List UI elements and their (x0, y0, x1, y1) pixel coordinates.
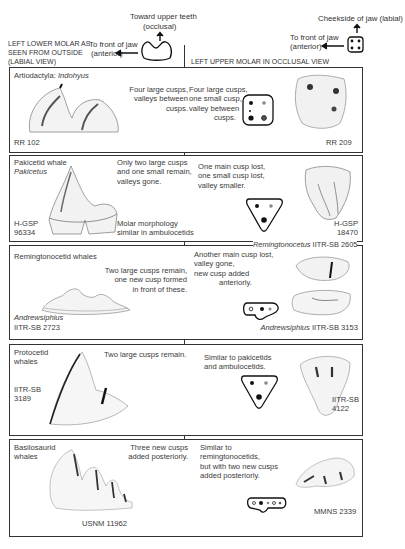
row2-lower-specimen: H-GSP96334 (14, 219, 38, 238)
left-title-1: LEFT LOWER MOLAR AS (8, 40, 90, 49)
row4-lower-specimen: IITR-SB3189 (14, 385, 41, 404)
row2-lower-note: Molar morphologysimilar in ambulocetids (117, 219, 194, 238)
row3-lower-specimen: IITR-SB 2723 (14, 323, 60, 332)
upper-molar-outline-icon (347, 36, 365, 54)
row2-lower-molar-drawing (45, 162, 120, 236)
row5-lower-specimen: USNM 11962 (82, 519, 127, 528)
row5-lower-desc: Three new cuspsadded posteriorly. (110, 443, 188, 462)
row2-cusp-diagram (245, 196, 285, 234)
row3-upper-top-drawing (292, 254, 354, 284)
lower-molar-outline-icon (139, 38, 175, 62)
row4-upper-desc: Similar to pakicetidsand ambulocetids. (204, 353, 272, 372)
row-basilosaurid: Basilosauridwhales Three new cuspsadded … (9, 439, 363, 537)
row3-group: Remingtonocetid whales (14, 252, 97, 261)
row2-upper-specimen: H-GSP18470 (310, 219, 358, 238)
row-protocetid: Protocetidwhales Two large cusps remain.… (9, 344, 363, 436)
row1-group: Artiodactyla: Indohyus (14, 71, 89, 80)
occlusal-label: Toward upper teeth (130, 12, 197, 22)
arrow-left-icon (115, 49, 139, 57)
row4-upper-specimen: IITR-SB4122 (332, 395, 359, 414)
row-pakicetid: Pakicetid whale Pakicetus Only two large… (9, 155, 363, 242)
left-title-2: SEEN FROM OUTSIDE (8, 49, 83, 58)
row2-upper-molar-drawing (300, 164, 355, 224)
right-anterior-2: (anterior) (290, 42, 322, 52)
row3-upper-desc: Another main cusp lost,valley gone,new c… (194, 250, 273, 288)
arrow-up-icon-right (352, 24, 362, 34)
row1-lower-molar-drawing (22, 82, 122, 138)
row3-cusp-diagram (242, 301, 282, 321)
row4-group: Protocetidwhales (14, 348, 48, 367)
right-labial-label: Cheekside of jaw (labial) (318, 14, 403, 24)
row1-cusp-diagram (242, 94, 276, 128)
row1-upper-specimen: RR 209 (326, 138, 352, 147)
row1-lower-specimen: RR 102 (14, 138, 40, 147)
row-remingtonocetid: Remingtonocetid whales Two large cusps r… (9, 245, 363, 340)
row1-upper-molar-drawing (290, 73, 350, 131)
row1-upper-desc: Four large cusps,one small cusp,valley b… (189, 85, 248, 123)
arrow-left-icon-right (321, 42, 345, 50)
row5-upper-desc: Similar toremingtonocetids,but with two … (200, 443, 278, 481)
row5-upper-specimen: MMNS 2339 (314, 507, 356, 516)
row2-lower-desc: Only two large cuspsand one small remain… (117, 158, 192, 186)
row4-lower-molar-drawing (46, 348, 130, 430)
row5-cusp-diagram (246, 496, 288, 516)
row3-lower-molar-drawing (38, 284, 133, 316)
row3-upper-top-label: Remingtonocetus IITR-SB 2605 (253, 240, 357, 249)
row-artiodactyla: Artiodactyla: Indohyus Four large cusps,… (9, 67, 363, 153)
row2-upper-desc: One main cusp lost,one small cusp lost,v… (198, 162, 265, 190)
row3-upper-bottom-label: Andrewsiphius IITR-SB 3153 (250, 323, 358, 332)
row2-taxon: Pakicetus (14, 167, 47, 176)
right-title: LEFT UPPER MOLAR IN OCCLUSAL VIEW (191, 58, 329, 67)
row5-upper-molar-drawing (292, 454, 358, 494)
row3-upper-bottom-drawing (290, 288, 355, 320)
row3-lower-taxon: Andrewsiphius (14, 313, 63, 322)
occlusal-sub: (occlusal) (143, 22, 176, 32)
row4-lower-desc: Two large cusps remain. (104, 350, 186, 359)
row1-lower-desc: Four large cusps,valleys betweencusps. (110, 85, 188, 113)
row4-cusp-diagram (240, 373, 280, 411)
left-title-3: (LABIAL VIEW) (8, 58, 56, 67)
